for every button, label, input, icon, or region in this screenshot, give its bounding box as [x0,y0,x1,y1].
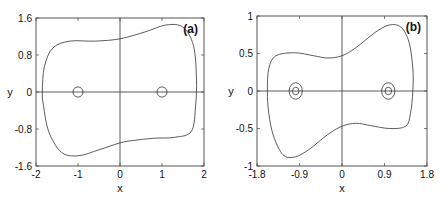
x-axis-label: x [117,182,123,194]
y-tick-label: 0.5 [239,48,253,59]
x-axis-label: x [339,182,345,194]
y-tick-label: -0.8 [15,124,33,135]
panel-label: (b) [406,20,421,34]
y-axis-label: y [7,86,13,98]
y-tick-label: 0.8 [18,50,32,61]
panel-a: -2-1012-1.6-0.800.81.6xy(a) [7,13,207,195]
x-tick-label: 0 [117,169,123,180]
x-tick-label: 2 [201,169,207,180]
panel-b: -1.8-0.900.91.8-1-0.500.51xy(b) [228,11,434,195]
x-tick-label: -2 [32,169,41,180]
y-tick-label: -1.6 [15,161,33,172]
x-tick-label: -1 [74,169,83,180]
x-tick-label: 0 [339,169,345,180]
y-tick-label: 1.6 [18,13,32,24]
y-axis-label: y [228,85,234,97]
y-tick-label: 0 [26,87,32,98]
x-tick-label: -0.9 [291,169,309,180]
orbit-curve [42,24,196,156]
figure: -2-1012-1.6-0.800.81.6xy(a) -1.8-0.900.9… [0,0,446,199]
y-tick-label: 0 [247,86,253,97]
x-tick-label: 1.8 [420,169,434,180]
y-tick-label: -1 [244,161,253,172]
y-tick-label: -0.5 [236,123,254,134]
x-tick-label: 0.9 [378,169,392,180]
y-tick-label: 1 [247,11,253,22]
x-tick-label: 1 [159,169,165,180]
